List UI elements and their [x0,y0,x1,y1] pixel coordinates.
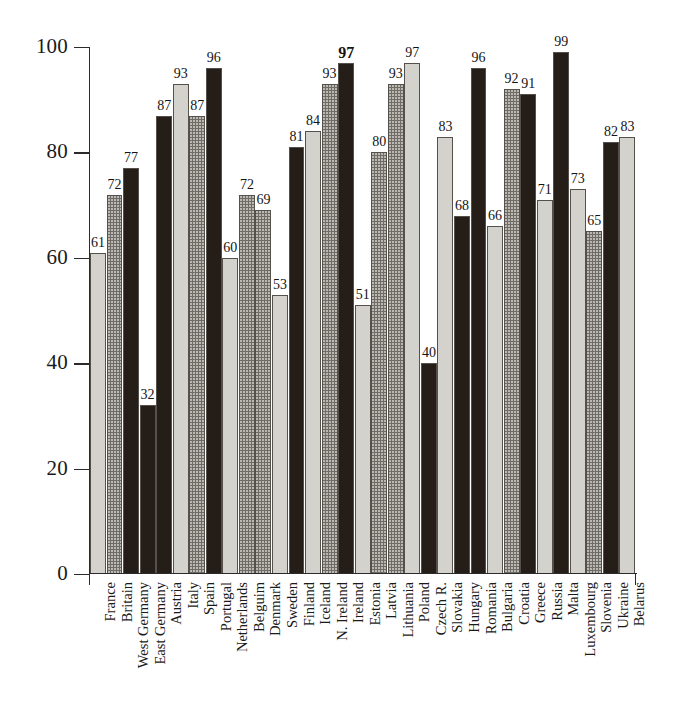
x-axis-category-label: Italy [186,582,201,609]
bar [487,226,503,574]
bar-slot [206,47,222,574]
x-axis-category-label: Denmark [268,582,283,636]
bar-chart: 020406080100 617277328793879660726953818… [0,0,687,722]
bar-slot [338,47,354,574]
bar [603,142,619,574]
bar [140,405,156,574]
x-axis-category-label: Ireland [351,582,366,623]
y-axis-tick [74,469,90,470]
x-axis-category-label: Latvia [384,582,399,619]
y-axis-tick-label: 40 [12,352,68,373]
x-axis-category-label: East Germany [153,582,168,665]
bar [504,89,520,574]
x-axis-category-label: Malta [566,582,581,616]
x-axis-category-label: Ukraine [616,582,631,629]
bar [189,116,205,574]
bar [239,195,255,574]
bar-slot [553,47,569,574]
bar [90,253,106,574]
bar-slot [570,47,586,574]
y-axis-tick [74,574,90,575]
x-axis-category-label: Spain [202,582,217,615]
x-axis-category-label: Greece [533,582,548,623]
bar-slot [322,47,338,574]
bar [222,258,238,574]
y-axis-tick-label: 80 [12,141,68,162]
x-axis-category-label: West Germany [136,582,151,668]
bar [537,200,553,574]
bar-slot [156,47,172,574]
x-axis-category-label: Belguim [252,582,267,632]
bar-slot [189,47,205,574]
bar [123,168,139,574]
x-axis-category-label: Bulgaria [500,582,515,632]
x-axis-category-label: Finland [302,582,317,626]
x-axis-category-label: Austria [169,582,184,625]
x-axis-category-label: Belarus [632,582,647,626]
bar-slot [123,47,139,574]
plot-area: 6172773287938796607269538184939751809397… [90,47,636,574]
y-axis-tick-label: 20 [12,458,68,479]
bar [619,137,635,574]
bar-slot [471,47,487,574]
x-axis-category-label: Portugal [219,582,234,631]
x-axis-category-label: France [103,582,118,621]
bar-slot [371,47,387,574]
bar [388,84,404,574]
bar-slot [173,47,189,574]
bar-slot [388,47,404,574]
bar-slot [520,47,536,574]
x-axis-category-label: Britain [120,582,135,622]
bar [173,84,189,574]
y-axis-tick [74,152,90,153]
bar-slot [487,47,503,574]
bar [421,363,437,574]
x-axis-line [89,573,637,574]
x-axis-category-label: Slovakia [450,582,465,633]
y-axis-tick [74,47,90,48]
y-axis-tick-label: 100 [12,36,68,57]
x-axis-category-label: Croatia [517,582,532,625]
x-axis-category-label: Luxembourg [583,582,598,657]
bar [272,295,288,574]
bar-slot [255,47,271,574]
bar [404,63,420,574]
x-axis-category-label: Sweden [285,582,300,628]
bar [520,94,536,574]
x-axis-category-label: Iceland [318,582,333,625]
y-axis-tick [74,258,90,259]
bar [305,131,321,574]
bar [322,84,338,574]
bar [570,189,586,574]
bar [471,68,487,574]
bar [206,68,222,574]
bar [107,195,123,574]
bar-slot [272,47,288,574]
x-axis-category-label: Slovenia [599,582,614,633]
bar-slot [454,47,470,574]
x-axis-category-label: N. Ireland [335,582,350,641]
bar-slot [90,47,106,574]
x-axis-category-label: Netherlands [235,582,250,652]
x-axis-category-label: Russia [550,582,565,621]
y-axis-tick-label: 60 [12,247,68,268]
bar-slot [107,47,123,574]
bar [156,116,172,574]
x-axis-cap-left [89,574,90,585]
x-axis-category-label: Estonia [368,582,383,626]
bar [338,63,354,574]
bar-slot [404,47,420,574]
bar-slot [222,47,238,574]
bar [371,152,387,574]
bar-slot [504,47,520,574]
y-axis-tick-label: 0 [12,563,68,584]
bar [289,147,305,574]
x-axis-category-label: Lithuania [401,582,416,638]
bar-slot [140,47,156,574]
x-axis-category-label: Romania [484,582,499,634]
bar [454,216,470,574]
bar-slot [537,47,553,574]
y-axis-tick [74,363,90,364]
bar-value-label: 83 [613,120,641,134]
bar [355,305,371,574]
